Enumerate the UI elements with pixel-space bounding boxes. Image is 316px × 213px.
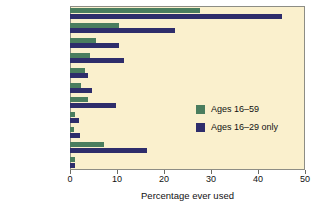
bar-group-cannabis — [70, 6, 305, 21]
bar-group-amphetamine — [70, 21, 305, 36]
bar-ages-16-59 — [70, 23, 119, 28]
legend-swatch-icon — [196, 105, 205, 114]
x-tick-label: 40 — [243, 174, 273, 184]
x-tick-label: 50 — [290, 174, 316, 184]
bar-group-benzodiazepines — [70, 66, 305, 81]
chart-legend: Ages 16–59Ages 16–29 only — [196, 104, 278, 140]
legend-swatch-icon — [196, 123, 205, 132]
bar-group-ecstasy — [70, 51, 305, 66]
bar-ages-16-29 — [70, 28, 175, 33]
bar-ages-16-29 — [70, 118, 79, 123]
bar-ages-16-59 — [70, 142, 104, 147]
bar-ages-16-59 — [70, 127, 74, 132]
bar-ages-16-59 — [70, 8, 200, 13]
bar-chart: CannabisAmphetamineLSDEcstasyBenzodiazep… — [0, 0, 316, 213]
legend-item-ages-16-29: Ages 16–29 only — [196, 122, 278, 132]
bar-ages-16-59 — [70, 97, 88, 102]
bar-ages-16-29 — [70, 103, 116, 108]
bar-ages-16-29 — [70, 14, 282, 19]
bar-ages-16-29 — [70, 133, 80, 138]
legend-label: Ages 16–59 — [211, 104, 259, 114]
bar-group-poppers — [70, 140, 305, 155]
bar-ages-16-59 — [70, 68, 85, 73]
x-tick-label: 20 — [149, 174, 179, 184]
x-tick-label: 30 — [196, 174, 226, 184]
bar-ages-16-59 — [70, 112, 75, 117]
bar-group-steroids — [70, 155, 305, 170]
bar-group-lsd — [70, 36, 305, 51]
bar-ages-16-29 — [70, 43, 119, 48]
bar-ages-16-59 — [70, 157, 75, 162]
bar-ages-16-59 — [70, 83, 81, 88]
x-tick-label: 0 — [55, 174, 85, 184]
bar-ages-16-29 — [70, 73, 88, 78]
x-tick-label: 10 — [102, 174, 132, 184]
bar-ages-16-29 — [70, 148, 147, 153]
bar-ages-16-29 — [70, 58, 124, 63]
bar-ages-16-29 — [70, 88, 92, 93]
legend-label: Ages 16–29 only — [211, 122, 278, 132]
bar-ages-16-59 — [70, 38, 96, 43]
bar-ages-16-59 — [70, 53, 90, 58]
bar-group-solvents — [70, 81, 305, 96]
x-axis-title: Percentage ever used — [70, 190, 305, 201]
x-axis: 01020304050 — [70, 170, 305, 192]
bar-ages-16-29 — [70, 163, 75, 168]
legend-item-ages-16-59: Ages 16–59 — [196, 104, 278, 114]
